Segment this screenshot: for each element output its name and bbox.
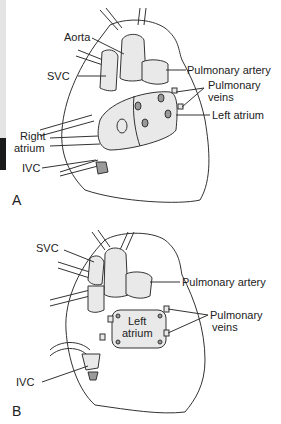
label-pulmonary-veins-b-line2: veins (212, 321, 238, 333)
label-ivc-a: IVC (22, 162, 40, 174)
cannula-top-a (100, 8, 122, 30)
pulmonary-artery-shape-b (126, 272, 152, 298)
label-aorta-a: Aorta (64, 31, 91, 43)
svc-stump-b (88, 286, 104, 312)
label-pulmonary-artery-a: Pulmonary artery (187, 64, 271, 76)
label-left-atrium-a: Left atrium (212, 109, 264, 121)
cannula-mid-a (40, 115, 94, 136)
cuff-orifice-b1 (116, 314, 120, 318)
label-pulmonary-artery-b: Pulmonary artery (182, 276, 266, 288)
label-pulmonary-veins-b-line1: Pulmonary (210, 309, 263, 321)
cuff-orifice-b4 (158, 340, 162, 344)
cuff-orifice-b2 (158, 314, 162, 318)
pulmonary-artery-shape-a (142, 60, 168, 84)
panel-letter-a: A (12, 192, 22, 208)
pulm-vein-stub-b4 (100, 334, 105, 340)
vein-orifice-a4 (135, 102, 141, 110)
heart-surgery-illustration: Aorta SVC Pulmonary artery Pulmonary vei… (0, 0, 281, 424)
right-atrium-orifice-a (117, 119, 127, 133)
ivc-shape-a (96, 162, 108, 174)
label-ivc-b: IVC (16, 376, 34, 388)
panel-letter-b: B (12, 403, 21, 419)
label-svc-a: SVC (47, 70, 70, 82)
svc-shape-a (100, 50, 118, 91)
label-svc-b: SVC (36, 242, 59, 254)
label-right-atrium-a-line2: atrium (14, 142, 45, 154)
panel-a: Aorta SVC Pulmonary artery Pulmonary vei… (12, 8, 271, 208)
vein-orifice-a2 (165, 110, 171, 118)
panel-b: SVC Pulmonary artery Left atrium Pulmona… (12, 230, 266, 419)
label-pulmonary-veins-a-line1: Pulmonary (208, 79, 261, 91)
cannula-aorta-a (138, 8, 146, 25)
aorta-shape-b (104, 248, 128, 297)
cannula-top-b (92, 230, 110, 250)
atrial-opening-a (98, 92, 177, 150)
ivc-stump-b (88, 372, 98, 380)
label-right-atrium-a-line1: Right (20, 130, 46, 142)
pulm-vein-stub-b1 (108, 316, 113, 322)
vein-orifice-a1 (158, 94, 164, 102)
label-left-atrium-b-line1: Left (128, 315, 146, 327)
label-left-atrium-b-line2: atrium (122, 327, 153, 339)
vein-orifice-a3 (142, 119, 148, 127)
label-pulmonary-veins-a-line2: veins (208, 91, 234, 103)
cuff-orifice-b3 (116, 340, 120, 344)
